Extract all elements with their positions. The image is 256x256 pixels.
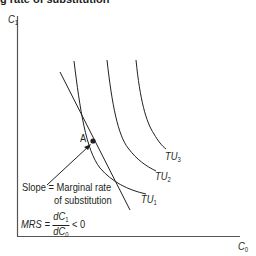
mrs-label: MRS =: [21, 218, 50, 230]
mrs-fraction: dC1 dC0: [52, 211, 69, 240]
curve-tu2: [107, 60, 156, 171]
curve-label-tu2: TU2: [155, 170, 171, 183]
slope-annotation-line1: Slope = Marginal rate: [22, 181, 111, 194]
slope-annotation-line2: of substitution: [54, 194, 112, 207]
fraction-denominator: dC0: [52, 226, 69, 240]
curve-tu3: [136, 60, 166, 149]
y-axis-label: C1: [8, 13, 18, 26]
mrs-inequality: < 0: [72, 218, 85, 230]
x-axis-label: C0: [238, 240, 248, 253]
point-a-label: A: [80, 132, 86, 145]
point-a: [90, 138, 95, 143]
indifference-curve-diagram: g rate of substitution C1 C0 TU3 TU2 TU1…: [0, 0, 256, 256]
annotation-arrow: [47, 146, 89, 185]
curve-label-tu1: TU1: [141, 193, 157, 206]
fraction-numerator: dC1: [52, 211, 69, 226]
curve-label-tu3: TU3: [165, 150, 181, 163]
mrs-formula: MRS = dC1 dC0 < 0: [21, 211, 85, 240]
